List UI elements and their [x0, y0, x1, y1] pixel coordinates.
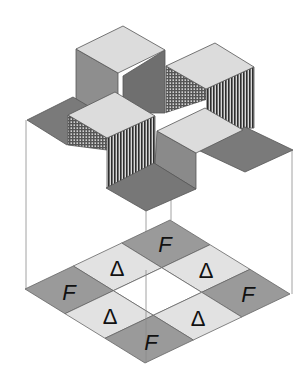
label-f: F: [62, 280, 77, 305]
label-f: F: [158, 232, 173, 257]
blocks: [27, 26, 293, 211]
diagram-canvas: F Δ Δ F F Δ Δ F: [0, 0, 306, 380]
label-delta: Δ: [103, 304, 118, 329]
isometric-block-diagram: F Δ Δ F F Δ Δ F: [0, 0, 306, 380]
label-delta: Δ: [199, 258, 214, 283]
label-f: F: [241, 282, 256, 307]
label-delta: Δ: [191, 306, 206, 331]
label-f: F: [144, 330, 159, 355]
label-delta: Δ: [110, 256, 125, 281]
